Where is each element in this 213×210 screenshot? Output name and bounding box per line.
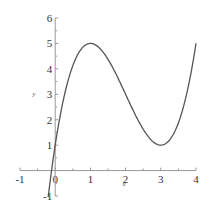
x-tick-label: 3 [158, 173, 164, 185]
function-plot: -101234 -1123456 x y [0, 0, 213, 210]
x-axis: -101234 [15, 168, 199, 185]
y-tick-label: 1 [47, 139, 53, 151]
x-tick-label: -1 [15, 173, 24, 185]
y-tick-label: 2 [47, 114, 53, 126]
y-tick-label: 6 [47, 12, 53, 24]
y-tick-label: 4 [47, 63, 53, 75]
y-axis-label: y [31, 90, 36, 98]
y-tick-label: 3 [47, 88, 53, 100]
y-tick-label: 5 [47, 37, 53, 49]
x-tick-label: 4 [193, 173, 199, 185]
x-tick-label: 1 [88, 173, 94, 185]
y-tick-label: -1 [43, 190, 52, 202]
